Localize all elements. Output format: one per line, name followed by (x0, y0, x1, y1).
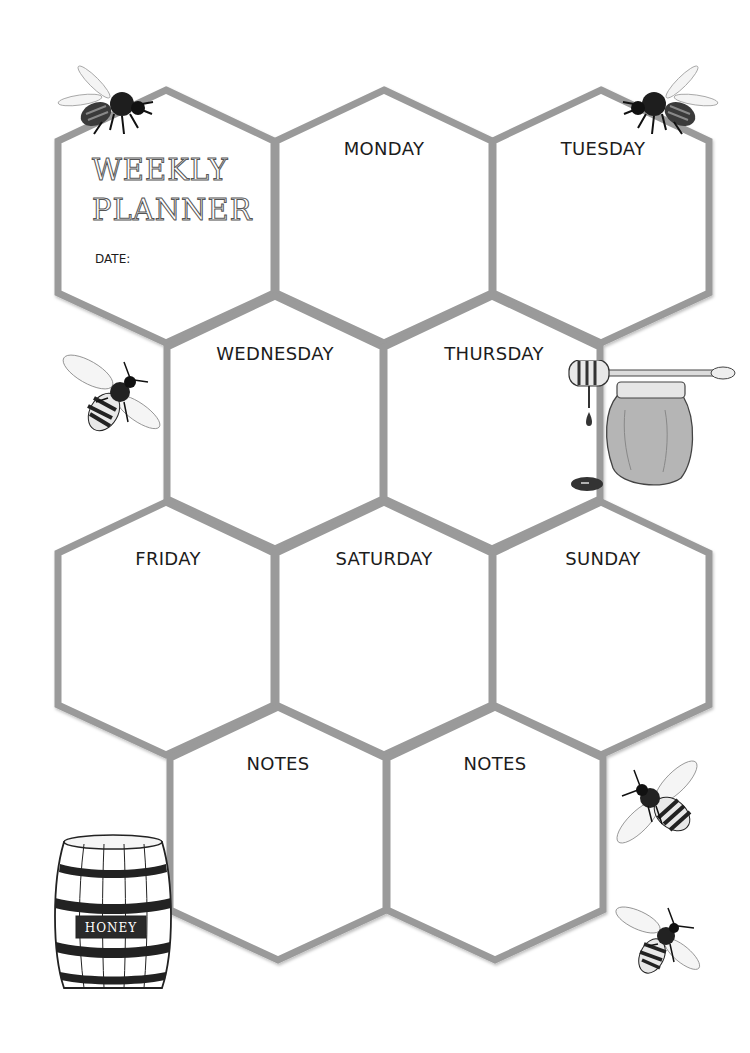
honey-jar-icon (565, 360, 740, 500)
label-notes-2: NOTES (464, 753, 527, 774)
bee-top-right-icon (620, 64, 720, 140)
bee-left-icon (58, 352, 164, 436)
hex-notes-2[interactable] (387, 707, 603, 960)
hex-saturday[interactable] (276, 502, 492, 755)
label-thursday: THURSDAY (444, 343, 544, 364)
weekly-planner-page: WEEKLY PLANNER DATE: MONDAY TUESDAY WEDN… (0, 0, 750, 1053)
hex-monday[interactable] (276, 90, 492, 343)
bee-bottom-right-1-icon (608, 752, 708, 852)
bee-bottom-right-2-icon (612, 900, 704, 980)
label-saturday: SATURDAY (335, 548, 432, 569)
label-wednesday: WEDNESDAY (216, 343, 333, 364)
label-tuesday: TUESDAY (561, 138, 646, 159)
hex-friday[interactable] (58, 502, 274, 755)
label-sunday: SUNDAY (565, 548, 640, 569)
hex-sunday[interactable] (493, 502, 709, 755)
barrel-label: HONEY (85, 921, 138, 935)
hex-wednesday[interactable] (167, 296, 383, 549)
label-friday: FRIDAY (135, 548, 200, 569)
planner-title-line2: PLANNER (92, 196, 252, 225)
bee-top-left-icon (56, 64, 156, 140)
label-monday: MONDAY (344, 138, 424, 159)
hex-notes-1[interactable] (170, 707, 386, 960)
planner-title-line1: WEEKLY (92, 156, 228, 185)
date-label: DATE: (95, 252, 130, 266)
honey-barrel-icon: HONEY (48, 832, 180, 998)
label-notes-1: NOTES (247, 753, 310, 774)
